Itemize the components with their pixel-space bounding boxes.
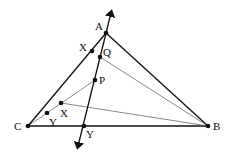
point-y-left: [45, 111, 50, 116]
segment-q-b: [100, 57, 208, 126]
point-b: [206, 124, 211, 129]
label-p: P: [99, 74, 105, 86]
point-p: [93, 78, 98, 83]
label-y-bottom: Y: [86, 128, 94, 140]
label-x-lower: X: [60, 107, 68, 119]
label-x-upper: X: [79, 41, 87, 53]
label-q: Q: [103, 46, 111, 58]
label-b: B: [213, 120, 220, 132]
label-c: C: [14, 120, 21, 132]
point-x-upper: [90, 49, 95, 54]
point-x-lower: [59, 101, 64, 106]
point-q: [98, 55, 103, 60]
side-ab: [106, 33, 208, 126]
point-c: [26, 124, 31, 129]
label-y-left: Y: [49, 116, 57, 128]
label-a: A: [95, 20, 103, 32]
point-a: [104, 31, 109, 36]
geometry-diagram: A B C P Q X X Y Y: [0, 0, 230, 155]
